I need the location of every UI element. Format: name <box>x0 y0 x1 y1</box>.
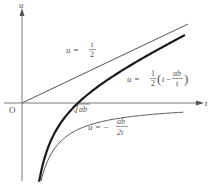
axes <box>4 8 204 181</box>
svg-text:t: t <box>176 79 179 88</box>
label-line: u = t 2 <box>66 40 96 59</box>
curve-line-t-over-2 <box>22 24 188 103</box>
svg-text:2: 2 <box>90 50 94 59</box>
svg-text:1: 1 <box>151 69 155 78</box>
curve-main <box>39 35 185 182</box>
origin-label: O <box>9 105 16 115</box>
function-graph: u t O ab u = t 2 u = 1 2 ( t − ab t ) u … <box>0 0 212 192</box>
svg-text:u =: u = <box>127 74 140 84</box>
svg-text:u =: u = <box>66 45 79 55</box>
svg-text:(: ( <box>157 71 161 86</box>
svg-text:−: − <box>166 74 171 84</box>
svg-text:2: 2 <box>151 79 155 88</box>
svg-text:ab: ab <box>173 69 181 78</box>
svg-text:u = −: u = − <box>88 122 109 132</box>
label-main: u = 1 2 ( t − ab t ) <box>127 69 188 88</box>
t-axis-label: t <box>205 98 208 108</box>
svg-text:ab: ab <box>117 117 125 126</box>
svg-text:t: t <box>162 74 165 84</box>
svg-text:t: t <box>91 40 94 49</box>
u-axis-label: u <box>19 0 24 10</box>
t-axis-arrow-icon <box>196 101 204 106</box>
svg-text:): ) <box>184 71 188 86</box>
svg-text:2t: 2t <box>117 128 124 137</box>
svg-text:ab: ab <box>79 105 87 114</box>
